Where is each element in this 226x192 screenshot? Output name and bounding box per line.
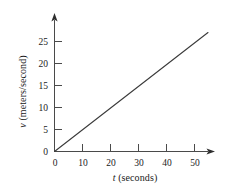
x-axis-ticks (83, 144, 195, 151)
y-axis-title: v (meters/second) (17, 28, 28, 156)
y-tick-label-0: 0 (30, 147, 48, 157)
y-tick-label-5: 5 (30, 125, 48, 135)
x-axis-title: t (seconds) (54, 172, 216, 183)
x-tick-label-20: 20 (101, 158, 121, 168)
velocity-time-chart: 25 20 15 10 5 0 0 10 20 30 40 50 v (mete… (0, 0, 226, 192)
y-tick-label-20: 20 (30, 59, 48, 69)
y-axis-title-unit: (meters/second) (17, 55, 28, 120)
x-axis-title-unit: (seconds) (118, 172, 157, 183)
y-axis-title-symbol: v (17, 123, 28, 128)
y-tick-label-10: 10 (30, 103, 48, 113)
y-tick-label-15: 15 (30, 81, 48, 91)
data-series-velocity (55, 33, 209, 152)
y-tick-label-25: 25 (30, 37, 48, 47)
x-tick-label-30: 30 (129, 158, 149, 168)
x-tick-label-40: 40 (157, 158, 177, 168)
x-tick-label-10: 10 (73, 158, 93, 168)
x-tick-label-0: 0 (45, 158, 65, 168)
y-axis-ticks (55, 42, 62, 130)
x-tick-label-50: 50 (185, 158, 205, 168)
